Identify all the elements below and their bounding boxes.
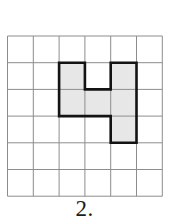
figure-label: 2. bbox=[0, 197, 169, 221]
shaded-cell bbox=[85, 89, 111, 116]
shaded-cell bbox=[111, 116, 137, 143]
puzzle-figure: 2. bbox=[0, 0, 169, 221]
grid-diagram bbox=[0, 0, 169, 197]
shaded-cell bbox=[59, 63, 85, 90]
shaded-cell bbox=[111, 63, 137, 90]
shaded-cell bbox=[59, 89, 85, 116]
shaded-cell bbox=[111, 89, 137, 116]
